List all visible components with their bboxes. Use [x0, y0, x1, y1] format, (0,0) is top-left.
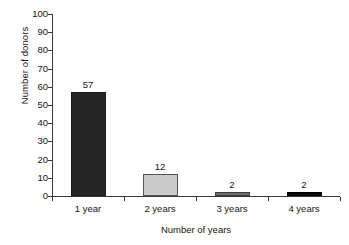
plot-area: 571222 — [52, 14, 340, 196]
y-axis-tick-label: 100 — [22, 9, 48, 19]
x-axis-tick-mark — [340, 197, 341, 201]
bar-chart: Number of donors 0102030405060708090100 … — [0, 0, 349, 245]
y-axis-tick-label: 30 — [22, 136, 48, 146]
x-axis-category-label: 2 years — [125, 203, 195, 214]
y-axis-tick-mark — [48, 178, 52, 179]
y-axis-tick-label: 90 — [22, 27, 48, 37]
y-axis-tick-label: 60 — [22, 82, 48, 92]
bar — [287, 192, 322, 196]
bar-value-label: 2 — [284, 180, 324, 190]
bar-value-label: 57 — [68, 80, 108, 90]
y-axis-tick-mark — [48, 160, 52, 161]
y-axis-tick-label: 10 — [22, 173, 48, 183]
y-axis-tick-mark — [48, 69, 52, 70]
x-axis-tick-mark — [124, 197, 125, 201]
bar — [215, 192, 250, 196]
y-axis-tick-mark — [48, 14, 52, 15]
y-axis-tick-mark — [48, 50, 52, 51]
y-axis-tick-mark — [48, 32, 52, 33]
bar — [143, 174, 178, 196]
y-axis-tick-label: 80 — [22, 45, 48, 55]
y-axis-tick-mark — [48, 141, 52, 142]
y-axis-tick-label: 20 — [22, 155, 48, 165]
x-axis-tick-mark — [52, 197, 53, 201]
bar-value-label: 12 — [140, 162, 180, 172]
x-axis-tick-mark — [196, 197, 197, 201]
x-axis-category-label: 4 years — [269, 203, 339, 214]
y-axis-tick-mark — [48, 105, 52, 106]
y-axis-tick-label: 0 — [22, 191, 48, 201]
y-axis-tick-mark — [48, 123, 52, 124]
y-axis-tick-labels: 0102030405060708090100 — [20, 0, 48, 245]
y-axis-tick-label: 50 — [22, 100, 48, 110]
bar-value-label: 2 — [212, 180, 252, 190]
x-axis-tick-mark — [268, 197, 269, 201]
y-axis-tick-label: 40 — [22, 118, 48, 128]
x-axis-category-label: 3 years — [197, 203, 267, 214]
bar — [71, 92, 106, 196]
x-axis-category-label: 1 year — [53, 203, 123, 214]
y-axis-tick-mark — [48, 87, 52, 88]
y-axis-tick-label: 70 — [22, 64, 48, 74]
x-axis-title: Number of years — [52, 224, 340, 235]
